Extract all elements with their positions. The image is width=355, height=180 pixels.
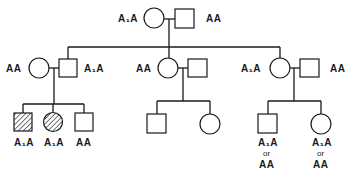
left-mother-female-symbol xyxy=(29,58,49,78)
right-child1-genotype-line1: A₁A xyxy=(258,137,278,148)
left-child2-affected-female-symbol xyxy=(44,113,63,132)
left-child1-affected-male-symbol xyxy=(14,113,32,131)
left-child3-male-symbol xyxy=(75,113,93,131)
right-child1-male-symbol xyxy=(258,114,277,133)
left-mother-genotype: AA xyxy=(6,63,21,74)
gen1-father-male-symbol xyxy=(175,9,194,28)
right-child1-genotype-line2: AA xyxy=(259,159,274,170)
family-left: AA A₁A A₁A A₁A AA xyxy=(6,58,104,148)
right-child2-genotype-line1: A₁A xyxy=(312,137,332,148)
middle-mother-genotype: AA xyxy=(136,63,151,74)
right-mother-female-symbol xyxy=(270,58,290,78)
gen1-father-genotype: AA xyxy=(206,13,221,24)
left-father-male-symbol xyxy=(59,59,77,77)
middle-mother-female-symbol xyxy=(158,58,178,78)
left-child2-genotype: A₁A xyxy=(44,137,64,148)
right-mother-genotype: A₁A xyxy=(241,63,261,74)
gen1-mother-genotype: A₁A xyxy=(118,13,138,24)
right-child2-genotype-line2: AA xyxy=(313,159,328,170)
generation-1: A₁A AA xyxy=(118,8,221,47)
left-child1-genotype: A₁A xyxy=(14,137,34,148)
middle-child2-female-symbol xyxy=(200,114,220,134)
family-middle: AA xyxy=(136,58,220,134)
pedigree-chart: A₁A AA AA A₁A A₁A A₁A AA AA xyxy=(0,0,355,180)
right-father-male-symbol xyxy=(300,59,319,77)
left-child3-genotype: AA xyxy=(76,137,91,148)
right-child2-or-text: or xyxy=(317,149,324,158)
middle-father-male-symbol xyxy=(188,59,207,77)
right-father-genotype: AA xyxy=(330,63,345,74)
left-father-genotype: A₁A xyxy=(84,63,104,74)
gen1-mother-female-symbol xyxy=(144,8,164,28)
right-child1-or-text: or xyxy=(263,149,270,158)
right-child2-female-symbol xyxy=(311,114,331,134)
middle-child1-male-symbol xyxy=(147,114,166,133)
family-right: A₁A AA A₁A or AA A₁A or AA xyxy=(241,58,345,170)
